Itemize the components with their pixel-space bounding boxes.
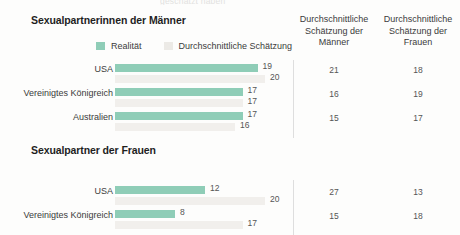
column-header-women-estimate: Durchschnittliche Schätzung der Frauen xyxy=(378,14,458,49)
cell-women-estimate: 17 xyxy=(378,113,458,123)
column-header-men-estimate: Durchschnittliche Schätzung der Männer xyxy=(296,14,372,49)
bar-estimate: 20 xyxy=(115,75,265,83)
cell-women-estimate: 18 xyxy=(378,65,458,75)
bar-value-reality: 12 xyxy=(210,183,219,193)
bar-value-estimate: 17 xyxy=(248,218,257,228)
chart-sheet: geschätzt haben Sexualpartnerinnen der M… xyxy=(0,0,460,235)
bar-reality: 19 xyxy=(115,64,258,72)
cell-men-estimate: 21 xyxy=(296,65,372,75)
row-label: USA xyxy=(0,64,113,74)
legend: Realität Durchschnittliche Schätzung xyxy=(96,41,292,51)
bar-estimate: 17 xyxy=(115,221,243,229)
row-label: USA xyxy=(0,186,113,196)
cell-women-estimate: 19 xyxy=(378,89,458,99)
bar-value-estimate: 20 xyxy=(270,72,279,82)
legend-item-estimate: Durchschnittliche Schätzung xyxy=(164,41,293,51)
cell-men-estimate: 27 xyxy=(296,187,372,197)
row-label: Vereinigtes Königreich xyxy=(0,210,113,220)
table-row: Australien17161517 xyxy=(0,112,460,136)
legend-item-reality: Realität xyxy=(96,41,142,51)
section-title-women: Sexualpartner der Frauen xyxy=(31,144,261,157)
bar-value-reality: 19 xyxy=(263,61,272,71)
row-bars: 817 xyxy=(115,210,290,229)
legend-label-estimate: Durchschnittliche Schätzung xyxy=(179,41,293,51)
bar-value-reality: 8 xyxy=(180,207,185,217)
cell-men-estimate: 15 xyxy=(296,113,372,123)
cell-women-estimate: 13 xyxy=(378,187,458,197)
bar-value-estimate: 17 xyxy=(248,96,257,106)
cut-off-title: geschätzt haben xyxy=(160,0,430,5)
legend-swatch-estimate-icon xyxy=(164,42,173,50)
row-bars: 1920 xyxy=(115,64,290,83)
bar-value-reality: 17 xyxy=(248,85,257,95)
table-row: Vereinigtes Königreich17171619 xyxy=(0,88,460,112)
cell-men-estimate: 15 xyxy=(296,211,372,221)
bar-value-estimate: 16 xyxy=(240,120,249,130)
row-bars: 1716 xyxy=(115,112,290,131)
bar-reality: 17 xyxy=(115,112,243,120)
bar-reality: 8 xyxy=(115,210,175,218)
table-row: USA19202118 xyxy=(0,64,460,88)
bar-estimate: 20 xyxy=(115,197,265,205)
section-title-men: Sexualpartnerinnen der Männer xyxy=(31,14,196,27)
bar-reality: 12 xyxy=(115,186,205,194)
bar-estimate: 16 xyxy=(115,123,235,131)
table-row: Vereinigtes Königreich8171518 xyxy=(0,210,460,234)
row-label: Vereinigtes Königreich xyxy=(0,88,113,98)
cell-women-estimate: 18 xyxy=(378,211,458,221)
cell-men-estimate: 16 xyxy=(296,89,372,99)
bar-reality: 17 xyxy=(115,88,243,96)
row-label: Australien xyxy=(0,112,113,122)
legend-swatch-reality-icon xyxy=(96,42,105,50)
bar-value-reality: 17 xyxy=(248,109,257,119)
row-bars: 1717 xyxy=(115,88,290,107)
table-row: USA12202713 xyxy=(0,186,460,210)
bar-estimate: 17 xyxy=(115,99,243,107)
legend-label-reality: Realität xyxy=(111,41,142,51)
bar-value-estimate: 20 xyxy=(270,194,279,204)
row-bars: 1220 xyxy=(115,186,290,205)
